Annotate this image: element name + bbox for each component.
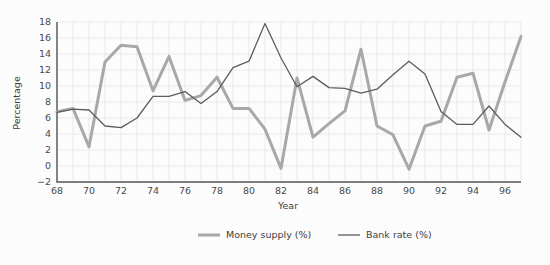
y-axis-tick-labels: −2024681012141618 <box>37 16 51 187</box>
line-chart: −2024681012141618 6870727476788082848688… <box>0 0 550 265</box>
y-tick-label: 12 <box>39 64 51 75</box>
legend-label-money-supply: Money supply (%) <box>226 229 311 240</box>
chart-legend: Money supply (%)Bank rate (%) <box>198 229 432 240</box>
x-tick-label: 86 <box>339 185 351 196</box>
y-tick-label: 0 <box>45 160 51 171</box>
x-axis-title: Year <box>277 200 298 211</box>
y-tick-label: 4 <box>45 128 51 139</box>
x-tick-label: 92 <box>435 185 447 196</box>
x-tick-label: 84 <box>307 185 319 196</box>
y-tick-label: 16 <box>39 32 51 43</box>
legend-label-bank-rate: Bank rate (%) <box>366 229 432 240</box>
y-axis-title: Percentage <box>11 76 22 130</box>
x-tick-label: 96 <box>499 185 511 196</box>
x-tick-label: 80 <box>243 185 255 196</box>
x-tick-label: 74 <box>147 185 159 196</box>
y-tick-label: 8 <box>45 96 51 107</box>
y-tick-label: 6 <box>45 112 51 123</box>
y-tick-label: 2 <box>45 144 51 155</box>
x-tick-label: 88 <box>371 185 383 196</box>
x-tick-label: 76 <box>179 185 191 196</box>
x-tick-label: 70 <box>83 185 95 196</box>
x-axis-tick-labels: 687072747678808284868890929496 <box>51 185 511 196</box>
series-line-money-supply <box>57 36 521 169</box>
y-tick-label: −2 <box>37 176 51 187</box>
chart-figure: −2024681012141618 6870727476788082848688… <box>0 0 550 265</box>
x-tick-label: 72 <box>115 185 127 196</box>
x-tick-label: 82 <box>275 185 287 196</box>
y-tick-label: 10 <box>39 80 51 91</box>
y-tick-label: 14 <box>39 48 51 59</box>
x-tick-label: 94 <box>467 185 479 196</box>
x-tick-label: 90 <box>403 185 415 196</box>
y-tick-label: 18 <box>39 16 51 27</box>
series-lines <box>57 24 521 170</box>
x-tick-label: 78 <box>211 185 223 196</box>
x-tick-label: 68 <box>51 185 63 196</box>
